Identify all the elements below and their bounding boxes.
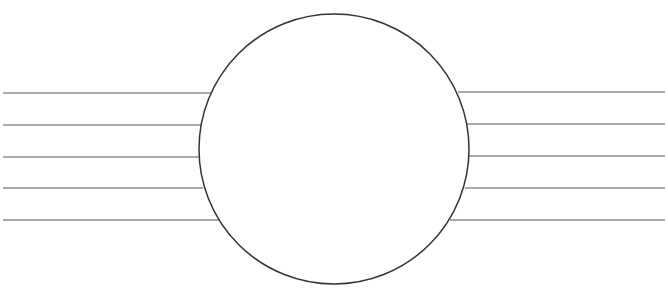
left-writing-lines xyxy=(3,93,219,220)
right-writing-lines xyxy=(450,92,665,220)
center-circle[interactable] xyxy=(199,14,469,284)
worksheet-canvas xyxy=(0,0,668,291)
